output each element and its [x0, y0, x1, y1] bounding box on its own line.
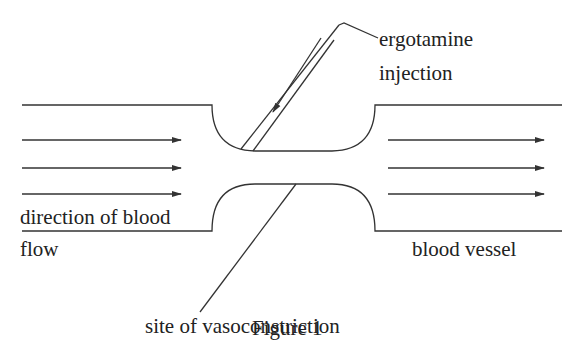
injection-arrow	[273, 38, 321, 112]
injection-leader	[339, 23, 378, 38]
site-leader	[200, 184, 296, 312]
injection-label-line2: injection	[379, 63, 452, 84]
injection-label-line1: ergotamine	[379, 29, 473, 50]
flow-label-line2: flow	[20, 239, 59, 260]
needle-line	[253, 40, 334, 151]
upper-vessel-wall	[22, 105, 562, 151]
vessel-diagram-svg	[0, 0, 572, 359]
vessel-label: blood vessel	[412, 239, 516, 260]
figure-diagram: ergotamine injection direction of blood …	[0, 0, 572, 359]
flow-label-line1: direction of blood	[20, 207, 170, 228]
needle-line	[241, 25, 339, 149]
figure-caption: Figure 1	[252, 318, 323, 339]
